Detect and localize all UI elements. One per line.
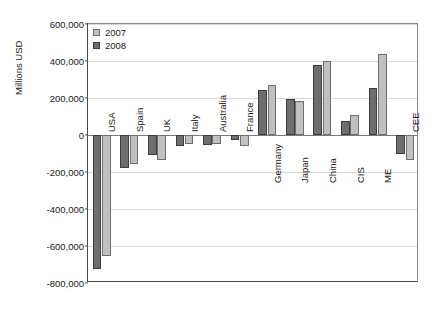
bar-group: ME: [364, 24, 392, 281]
bar-2007: [378, 54, 387, 135]
bar-2007: [406, 135, 415, 160]
bar-2008: [203, 135, 212, 145]
bar-2007: [157, 135, 166, 160]
y-axis-title: Millions USD: [13, 0, 27, 95]
plot-area: 600,000400,000200,0000-200,000-400,000-6…: [87, 23, 418, 282]
bar-group: Japan: [281, 24, 309, 281]
y-axis-tick-label: 0: [2, 130, 84, 141]
bar-2007: [268, 85, 277, 135]
bar-2007: [102, 135, 111, 256]
bar-group: China: [309, 24, 337, 281]
y-axis-tick-label: -600,000: [2, 241, 84, 252]
bar-group: Spain: [116, 24, 144, 281]
bar-group: Germany: [254, 24, 282, 281]
x-axis-category-label: CEE: [410, 112, 421, 132]
bar-group: Italy: [171, 24, 199, 281]
y-axis-tick-label: -400,000: [2, 204, 84, 215]
legend-label-2007: 2007: [105, 26, 126, 39]
y-axis-tick-label: -800,000: [2, 278, 84, 289]
bar-2008: [258, 90, 267, 135]
bar-2008: [93, 135, 102, 269]
legend-item-2007: 2007: [93, 26, 126, 39]
bar-2008: [341, 121, 350, 135]
legend-swatch-2008-icon: [93, 42, 100, 49]
bar-2008: [396, 135, 405, 154]
legend-item-2008: 2008: [93, 39, 126, 52]
legend-label-2008: 2008: [105, 39, 126, 52]
chart-legend: 2007 2008: [93, 26, 126, 52]
y-axis-tick-label: 600,000: [2, 19, 84, 30]
bar-group: UK: [143, 24, 171, 281]
bar-chart: Millions USD 600,000400,000200,0000-200,…: [0, 0, 434, 310]
y-axis-tick-mark: [85, 282, 89, 283]
y-axis-tick-label: 200,000: [2, 93, 84, 104]
bar-2008: [286, 99, 295, 135]
legend-swatch-2007-icon: [93, 29, 100, 36]
bar-group: USA: [88, 24, 116, 281]
y-axis-tick-label: -200,000: [2, 167, 84, 178]
bar-2007: [240, 135, 249, 146]
bar-group: Australia: [198, 24, 226, 281]
bar-2007: [130, 135, 139, 164]
y-axis-tick-label: 400,000: [2, 56, 84, 67]
bar-2007: [185, 135, 194, 144]
bar-group: CIS: [336, 24, 364, 281]
bar-2008: [176, 135, 185, 146]
bar-2007: [350, 115, 359, 135]
bar-group: CEE: [391, 24, 419, 281]
bar-2008: [148, 135, 157, 155]
bar-2007: [212, 135, 221, 144]
bar-group: France: [226, 24, 254, 281]
bar-2007: [295, 101, 304, 135]
bar-2008: [231, 135, 240, 140]
bar-2007: [323, 61, 332, 135]
bar-2008: [369, 88, 378, 135]
bar-2008: [120, 135, 129, 168]
bar-2008: [313, 65, 322, 135]
